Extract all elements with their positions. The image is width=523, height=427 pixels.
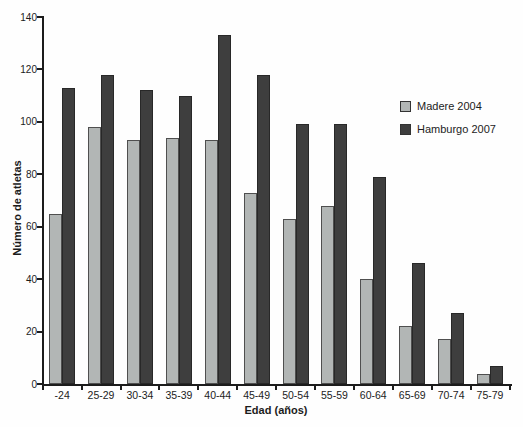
bar-hamburgo-2007 xyxy=(257,75,270,384)
y-tick-label: 120 xyxy=(0,63,37,76)
legend-item-madere-2004: Madere 2004 xyxy=(400,100,496,113)
bar-madere-2004 xyxy=(166,138,179,384)
bar-hamburgo-2007 xyxy=(451,313,464,384)
bar-hamburgo-2007 xyxy=(373,177,386,384)
bar-madere-2004 xyxy=(49,214,62,384)
bar-chart: Número de atletas 020406080100120140-242… xyxy=(0,0,523,427)
bar-hamburgo-2007 xyxy=(140,90,153,384)
x-axis-title: Edad (años) xyxy=(201,404,351,416)
y-tick xyxy=(37,173,42,175)
bar-madere-2004 xyxy=(360,279,373,384)
y-axis-line xyxy=(42,16,44,386)
bar-madere-2004 xyxy=(244,193,257,384)
legend-swatch-madere-2004 xyxy=(400,101,411,112)
y-tick xyxy=(37,68,42,70)
y-tick-label: 40 xyxy=(0,273,37,286)
bar-madere-2004 xyxy=(477,374,490,384)
y-tick xyxy=(37,121,42,123)
y-tick xyxy=(37,226,42,228)
y-tick xyxy=(37,383,42,385)
bar-hamburgo-2007 xyxy=(62,88,75,384)
legend-item-hamburgo-2007: Hamburgo 2007 xyxy=(400,123,496,136)
bar-madere-2004 xyxy=(399,326,412,384)
y-tick-label: 60 xyxy=(0,220,37,233)
bar-hamburgo-2007 xyxy=(490,366,503,384)
y-tick xyxy=(37,16,42,18)
y-tick-label: 80 xyxy=(0,168,37,181)
legend-label: Hamburgo 2007 xyxy=(417,123,496,136)
bar-hamburgo-2007 xyxy=(179,96,192,384)
bar-madere-2004 xyxy=(88,127,101,384)
legend-label: Madere 2004 xyxy=(417,100,482,113)
x-tick-label: 75-79 xyxy=(467,389,513,402)
legend: Madere 2004Hamburgo 2007 xyxy=(400,100,496,146)
bar-madere-2004 xyxy=(127,140,140,384)
y-tick-label: 100 xyxy=(0,115,37,128)
bar-madere-2004 xyxy=(438,339,451,384)
bar-hamburgo-2007 xyxy=(296,124,309,384)
bar-hamburgo-2007 xyxy=(218,35,231,384)
bar-madere-2004 xyxy=(321,206,334,384)
bar-madere-2004 xyxy=(205,140,218,384)
y-tick-label: 140 xyxy=(0,11,37,24)
y-tick-label: 0 xyxy=(0,378,37,391)
y-tick xyxy=(37,278,42,280)
bar-hamburgo-2007 xyxy=(334,124,347,384)
bar-hamburgo-2007 xyxy=(101,75,114,384)
y-axis-title: Número de atletas xyxy=(10,128,24,288)
legend-swatch-hamburgo-2007 xyxy=(400,124,411,135)
y-tick-label: 20 xyxy=(0,325,37,338)
bar-hamburgo-2007 xyxy=(412,263,425,384)
y-tick xyxy=(37,331,42,333)
bar-madere-2004 xyxy=(283,219,296,384)
